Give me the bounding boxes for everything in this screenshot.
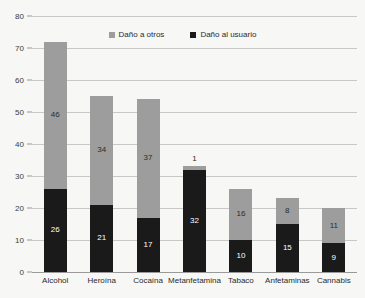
x-axis-category-label: Heroína <box>87 276 115 285</box>
x-axis-category-label: Cannabis <box>317 276 351 285</box>
y-axis-tick-label: 40 <box>15 140 24 149</box>
bar-value-label-other: 16 <box>236 210 245 218</box>
bar-value-label-other: 37 <box>144 154 153 162</box>
y-axis-tick-label: 20 <box>15 204 24 213</box>
bar-value-label-user: 15 <box>283 244 292 252</box>
x-axis: AlcoholHeroínaCocaínaMetanfetaminaTabaco… <box>32 274 357 294</box>
bar-segment-user[interactable]: 32 <box>183 170 206 272</box>
bar-segment-other[interactable]: 34 <box>90 96 113 205</box>
bar-group[interactable]: 815 <box>276 198 299 272</box>
bar-value-label-other: 11 <box>330 222 338 230</box>
bar-segment-other[interactable]: 37 <box>137 99 160 217</box>
bar-segment-other[interactable]: 8 <box>276 198 299 224</box>
bar-group[interactable]: 3717 <box>137 99 160 272</box>
x-axis-category-label: Tabaco <box>228 276 254 285</box>
y-axis-tick-label: 10 <box>15 236 24 245</box>
bar-segment-user[interactable]: 26 <box>44 189 67 272</box>
bar-segment-user[interactable]: 10 <box>229 240 252 272</box>
y-axis-tick-label: 80 <box>15 12 24 21</box>
y-axis: 01020304050607080 <box>0 16 32 272</box>
bars-layer: 4626342137171321610815119 <box>32 16 357 272</box>
bar-value-label-user: 9 <box>332 254 336 262</box>
bar-segment-user[interactable]: 15 <box>276 224 299 272</box>
y-axis-tick-label: 60 <box>15 76 24 85</box>
bar-value-label-other: 1 <box>192 155 196 163</box>
stacked-bar-chart: 01020304050607080 Daño a otrosDaño al us… <box>0 0 365 298</box>
bar-segment-other[interactable]: 11 <box>322 208 345 243</box>
bar-value-label-user: 10 <box>236 252 245 260</box>
bar-value-label-other: 34 <box>97 146 106 154</box>
gridline-0 <box>32 272 357 273</box>
bar-segment-other[interactable]: 16 <box>229 189 252 240</box>
x-axis-category-label: Cocaína <box>133 276 163 285</box>
bar-group[interactable]: 4626 <box>44 42 67 272</box>
bar-value-label-other: 8 <box>285 207 289 215</box>
bar-group[interactable]: 132 <box>183 166 206 272</box>
x-axis-category-label: Metanfetamina <box>168 276 221 285</box>
y-axis-tick-label: 0 <box>20 268 24 277</box>
bar-group[interactable]: 119 <box>322 208 345 272</box>
y-axis-tick-label: 50 <box>15 108 24 117</box>
bar-segment-user[interactable]: 17 <box>137 218 160 272</box>
bar-value-label-user: 21 <box>97 234 106 242</box>
bar-value-label-other: 46 <box>51 111 60 119</box>
x-axis-category-label: Anfetaminas <box>265 276 309 285</box>
bar-segment-user[interactable]: 21 <box>90 205 113 272</box>
bar-value-label-user: 26 <box>51 226 60 234</box>
bar-segment-other[interactable]: 46 <box>44 42 67 189</box>
y-axis-tick-label: 70 <box>15 44 24 53</box>
x-axis-category-label: Alcohol <box>42 276 68 285</box>
bar-group[interactable]: 3421 <box>90 96 113 272</box>
bar-value-label-user: 17 <box>144 241 153 249</box>
bar-segment-user[interactable]: 9 <box>322 243 345 272</box>
y-axis-tick-label: 30 <box>15 172 24 181</box>
bar-value-label-user: 32 <box>190 217 199 225</box>
bar-group[interactable]: 1610 <box>229 189 252 272</box>
